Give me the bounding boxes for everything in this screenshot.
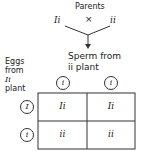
egg-allele-2: i <box>20 128 34 142</box>
sperm-allele-1: i <box>56 76 70 90</box>
egg-allele-1: I <box>20 100 34 114</box>
grid-cell-1-2: Ii <box>87 101 135 111</box>
sperm-allele-2: i <box>104 76 118 90</box>
parents-title: Parents <box>75 2 105 11</box>
cross-symbol: × <box>85 14 93 24</box>
eggs-label-line1: Eggs <box>5 57 24 66</box>
grid-cell-1-1: Ii <box>38 101 87 111</box>
parent-right-genotype: ii <box>110 15 116 25</box>
sperm-label-line1: Sperm from <box>68 51 121 61</box>
eggs-label-line4: plant <box>5 84 25 93</box>
parent-left-genotype: Ii <box>54 15 60 25</box>
eggs-label-line3: Ii <box>5 75 11 84</box>
eggs-label-line2: from <box>5 66 24 75</box>
sperm-label-line2: ii plant <box>68 62 99 72</box>
grid-cell-2-2: ii <box>87 129 135 139</box>
grid-cell-2-1: ii <box>38 129 87 139</box>
